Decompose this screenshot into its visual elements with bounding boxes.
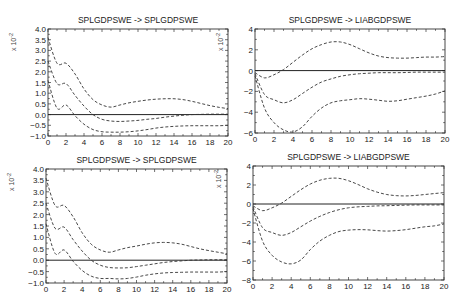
y-tick-label: 0.0 bbox=[35, 111, 47, 120]
x-tick-label: 16 bbox=[186, 285, 195, 294]
x-tick-label: 12 bbox=[363, 282, 372, 291]
y-tick-label: 4.0 bbox=[33, 165, 45, 174]
x-tick-label: 16 bbox=[188, 138, 197, 147]
plot-frame bbox=[253, 166, 444, 280]
x-tick-label: 2 bbox=[270, 282, 275, 291]
x-tick-label: 18 bbox=[420, 282, 429, 291]
y-tick-label: 2.5 bbox=[35, 57, 47, 66]
x-tick-label: 4 bbox=[289, 282, 294, 291]
series-median-line bbox=[48, 61, 228, 121]
x-tick-label: 18 bbox=[204, 285, 213, 294]
x-tick-label: 2 bbox=[272, 135, 277, 144]
y-tick-label: −0.5 bbox=[30, 121, 46, 130]
x-tick-label: 12 bbox=[152, 138, 161, 147]
x-tick-label: 18 bbox=[206, 138, 215, 147]
x-tick-label: 16 bbox=[403, 135, 412, 144]
y-tick-label: 2.5 bbox=[33, 199, 45, 208]
y-tick-label: −2 bbox=[242, 219, 252, 228]
y-tick-label: 4 bbox=[249, 25, 254, 34]
impulse-response-figure: SPLGDPSWE -> SPLGDPSWEx 10-2024681012141… bbox=[0, 0, 468, 306]
x-tick-label: 0 bbox=[44, 285, 49, 294]
y-tick-label: 4.0 bbox=[35, 25, 47, 34]
y-tick-label: −6 bbox=[242, 257, 252, 266]
y-tick-label: 0 bbox=[249, 67, 254, 76]
y-tick-label: 2 bbox=[249, 46, 254, 55]
plot-frame bbox=[46, 169, 227, 283]
x-tick-label: 6 bbox=[308, 282, 313, 291]
x-tick-label: 0 bbox=[253, 135, 258, 144]
x-tick-label: 14 bbox=[382, 282, 391, 291]
series-upper-line bbox=[46, 178, 227, 254]
x-tick-label: 20 bbox=[441, 135, 450, 144]
subplot-1: SPLGDPSWE -> SPLGDPSWEx 10-2024681012141… bbox=[8, 15, 233, 147]
x-tick-label: 4 bbox=[291, 135, 296, 144]
x-tick-label: 14 bbox=[168, 285, 177, 294]
y-tick-label: 0 bbox=[247, 200, 252, 209]
subplot-2: SPLGDPSWE -> LIABGDPSWEx 10-202468101214… bbox=[215, 15, 450, 144]
series-lower-line bbox=[48, 80, 228, 132]
x-tick-label: 6 bbox=[98, 285, 103, 294]
y-tick-label: 2 bbox=[247, 181, 252, 190]
x-tick-label: 8 bbox=[329, 135, 334, 144]
subplot-4: SPLGDPSWE -> LIABGDPSWEx 10-202468101214… bbox=[213, 152, 449, 291]
x-tick-label: 10 bbox=[346, 135, 355, 144]
y-axis-scale-label: x 10-2 bbox=[8, 33, 17, 51]
y-tick-label: −8 bbox=[242, 276, 252, 285]
series-upper-line bbox=[48, 38, 228, 109]
y-axis-scale-label: x 10-2 bbox=[215, 33, 224, 51]
x-tick-label: 4 bbox=[80, 285, 85, 294]
y-tick-label: −4 bbox=[242, 238, 252, 247]
subplot-title: SPLGDPSWE -> SPLGDPSWE bbox=[76, 155, 197, 165]
y-tick-label: 3.0 bbox=[33, 188, 45, 197]
x-tick-label: 8 bbox=[327, 282, 332, 291]
x-tick-label: 4 bbox=[82, 138, 87, 147]
y-tick-label: 1.0 bbox=[35, 89, 47, 98]
y-tick-label: 3.0 bbox=[35, 46, 47, 55]
y-tick-label: 0.5 bbox=[33, 245, 45, 254]
x-tick-label: 10 bbox=[132, 285, 141, 294]
y-tick-label: 1.0 bbox=[33, 233, 45, 242]
x-tick-label: 12 bbox=[365, 135, 374, 144]
y-tick-label: 1.5 bbox=[33, 222, 45, 231]
x-tick-label: 18 bbox=[422, 135, 431, 144]
x-tick-label: 0 bbox=[46, 138, 51, 147]
y-axis-scale-label: x 10-2 bbox=[6, 173, 15, 191]
x-tick-label: 0 bbox=[251, 282, 256, 291]
y-tick-label: −6 bbox=[244, 129, 254, 138]
y-tick-label: 2.0 bbox=[33, 211, 45, 220]
series-lower-line bbox=[46, 224, 227, 279]
x-tick-label: 14 bbox=[384, 135, 393, 144]
x-tick-label: 2 bbox=[64, 138, 69, 147]
y-tick-label: 2.0 bbox=[35, 68, 47, 77]
x-tick-label: 10 bbox=[344, 282, 353, 291]
x-tick-label: 8 bbox=[116, 285, 121, 294]
y-tick-label: −0.5 bbox=[28, 268, 44, 277]
series-upper-line bbox=[253, 178, 444, 211]
x-tick-label: 2 bbox=[62, 285, 67, 294]
x-tick-label: 8 bbox=[118, 138, 123, 147]
x-tick-label: 6 bbox=[100, 138, 105, 147]
x-tick-label: 20 bbox=[223, 285, 232, 294]
series-lower-line bbox=[253, 209, 444, 264]
x-tick-label: 16 bbox=[401, 282, 410, 291]
y-tick-label: −4 bbox=[244, 108, 254, 117]
x-tick-label: 20 bbox=[224, 138, 233, 147]
series-upper-line bbox=[255, 42, 445, 78]
y-tick-label: 0.0 bbox=[33, 256, 45, 265]
subplot-title: SPLGDPSWE -> LIABGDPSWE bbox=[289, 15, 412, 25]
y-tick-label: 1.5 bbox=[35, 79, 47, 88]
x-tick-label: 6 bbox=[310, 135, 315, 144]
x-tick-label: 12 bbox=[150, 285, 159, 294]
subplot-3: SPLGDPSWE -> SPLGDPSWEx 10-2024681012141… bbox=[6, 155, 232, 294]
y-tick-label: 3.5 bbox=[33, 176, 45, 185]
y-tick-label: 4 bbox=[247, 162, 252, 171]
subplot-title: SPLGDPSWE -> SPLGDPSWE bbox=[78, 15, 199, 25]
series-lower-line bbox=[255, 76, 445, 132]
x-tick-label: 20 bbox=[440, 282, 449, 291]
y-tick-label: 3.5 bbox=[35, 36, 47, 45]
series-median-line bbox=[255, 72, 445, 103]
x-tick-label: 14 bbox=[170, 138, 179, 147]
subplot-title: SPLGDPSWE -> LIABGDPSWE bbox=[287, 152, 410, 162]
y-tick-label: 0.5 bbox=[35, 100, 47, 109]
y-axis-scale-label: x 10-2 bbox=[213, 170, 222, 188]
